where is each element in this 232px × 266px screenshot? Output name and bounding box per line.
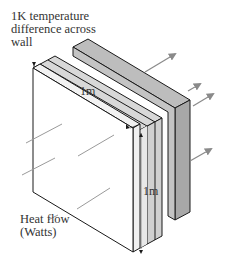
width-dimension-label: 1m [80, 85, 95, 98]
temperature-difference-label: 1K temperature difference across wall [11, 10, 96, 49]
height-dimension-label: 1m [143, 185, 158, 198]
heat-flow-label-line-2: (Watts) [20, 226, 70, 239]
heat-flow-label: Heat flow (Watts) [20, 213, 70, 239]
temperature-label-line-3: wall [11, 36, 96, 49]
